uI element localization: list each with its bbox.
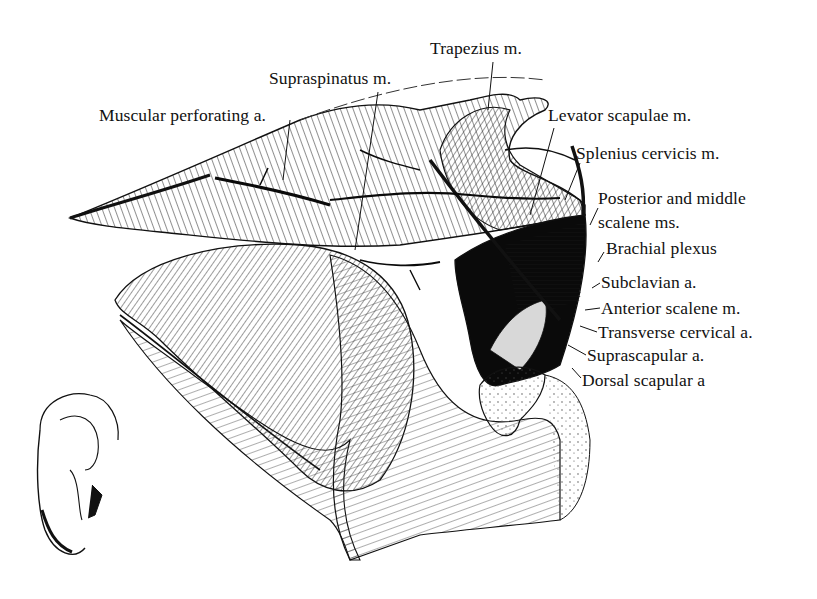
label-suprascapular-artery: Suprascapular a.	[587, 345, 704, 365]
label-transverse-cervical-artery: Transverse cervical a.	[598, 322, 753, 342]
label-muscular-perforating-artery: Muscular perforating a.	[99, 105, 266, 125]
label-splenius-cervicis: Splenius cervicis m.	[576, 143, 719, 163]
label-levator-scapulae: Levator scapulae m.	[548, 105, 691, 125]
label-supraspinatus: Supraspinatus m.	[269, 68, 391, 88]
label-subclavian-artery: Subclavian a.	[601, 272, 697, 292]
label-posterior-middle-scalene-line1: Posterior and middle	[598, 188, 746, 208]
label-posterior-middle-scalene-line2: scalene ms.	[598, 212, 680, 232]
label-dorsal-scapular-artery: Dorsal scapular a	[582, 370, 705, 390]
ear-drawing	[38, 394, 119, 554]
label-brachial-plexus: Brachial plexus	[606, 238, 717, 258]
label-anterior-scalene: Anterior scalene m.	[601, 298, 740, 318]
anatomical-figure: Trapezius m. Supraspinatus m. Muscular p…	[0, 0, 817, 599]
label-trapezius: Trapezius m.	[430, 38, 522, 58]
